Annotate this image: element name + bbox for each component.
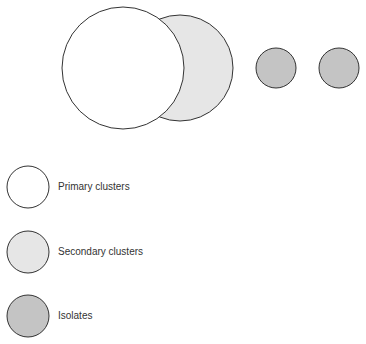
legend-primary-label: Primary clusters <box>58 181 130 192</box>
legend-isolate-label: Isolates <box>58 310 92 321</box>
legend-secondary-swatch <box>7 231 49 273</box>
isolate-circle-2 <box>319 48 359 88</box>
cluster-diagram <box>0 0 366 344</box>
primary-cluster-circle <box>62 7 184 129</box>
legend-isolate-swatch <box>7 295 49 337</box>
legend-primary-swatch <box>7 166 49 208</box>
isolate-circle-1 <box>256 48 296 88</box>
legend-secondary-label: Secondary clusters <box>58 246 143 257</box>
